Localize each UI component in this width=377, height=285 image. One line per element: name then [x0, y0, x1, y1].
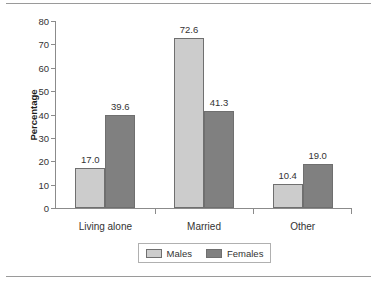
bar-value-label: 10.4 — [278, 170, 297, 181]
x-axis-tick — [253, 209, 254, 214]
figure-top-rule — [6, 3, 371, 4]
bar-value-label: 41.3 — [210, 97, 229, 108]
x-axis-category-label: Living alone — [79, 221, 132, 232]
y-axis-tick-label: 30 — [38, 132, 49, 143]
legend-swatch-males — [146, 249, 162, 258]
legend-swatch-females — [206, 249, 222, 258]
bar-males-other — [273, 184, 303, 208]
y-axis-tick — [51, 161, 55, 162]
y-axis-tick — [51, 91, 55, 92]
legend-entry-males: Males — [146, 248, 192, 259]
bar-value-label: 17.0 — [81, 154, 100, 165]
y-axis-tick-label: 70 — [38, 39, 49, 50]
bar-value-label: 39.6 — [111, 101, 130, 112]
x-axis-tick — [351, 209, 352, 214]
bar-value-label: 19.0 — [308, 150, 327, 161]
bar-females-living-alone — [105, 115, 135, 208]
x-axis-line — [55, 208, 352, 209]
y-axis-line — [55, 21, 56, 209]
bar-males-living-alone — [75, 168, 105, 208]
y-axis-tick-label: 60 — [38, 62, 49, 73]
y-axis-tick — [51, 185, 55, 186]
y-axis-tick-label: 20 — [38, 156, 49, 167]
y-axis-tick-label: 0 — [44, 203, 49, 214]
legend-label: Females — [227, 248, 263, 259]
chart-figure: Percentage 01020304050607080 17.039.672.… — [0, 0, 377, 285]
x-axis-tick — [155, 209, 156, 214]
y-axis-tick — [51, 138, 55, 139]
plot-area: 01020304050607080 17.039.672.641.310.419… — [56, 21, 352, 208]
y-axis-title-holder: Percentage — [0, 21, 26, 208]
bar-value-label: 72.6 — [180, 24, 199, 35]
x-axis-category-label: Other — [290, 221, 315, 232]
x-axis-category-label: Married — [187, 221, 221, 232]
y-axis-tick — [51, 68, 55, 69]
y-axis-tick-label: 10 — [38, 179, 49, 190]
figure-bottom-rule — [6, 276, 371, 277]
y-axis-tick-label: 80 — [38, 16, 49, 27]
bar-females-married — [204, 111, 234, 208]
y-axis-tick — [51, 44, 55, 45]
y-axis-tick — [51, 115, 55, 116]
y-axis-tick-label: 50 — [38, 86, 49, 97]
legend-label: Males — [167, 248, 192, 259]
chart-legend: MalesFemales — [138, 243, 271, 263]
y-axis-tick — [51, 208, 55, 209]
legend-entry-females: Females — [206, 248, 263, 259]
bar-males-married — [174, 38, 204, 208]
y-axis-tick — [51, 21, 55, 22]
bar-females-other — [303, 164, 333, 208]
y-axis-tick-label: 40 — [38, 109, 49, 120]
